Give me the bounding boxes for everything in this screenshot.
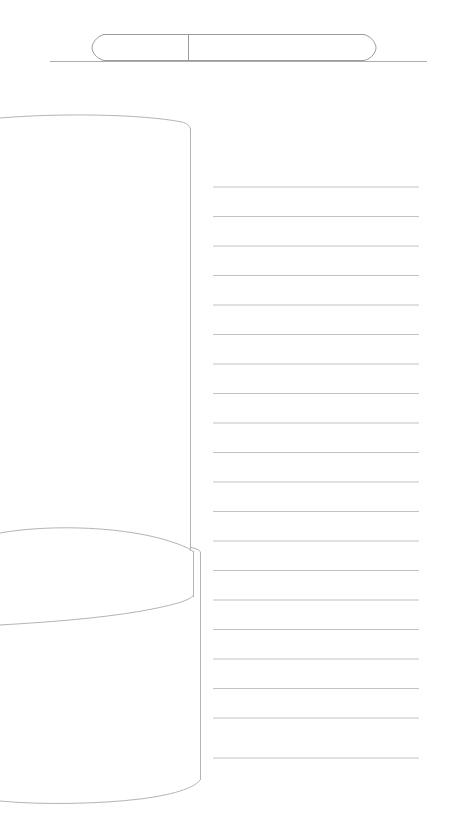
- lower-panel-bottom-curve: [0, 780, 200, 803]
- line-art-svg: [0, 0, 451, 839]
- ruled-lines: [213, 187, 419, 758]
- top-group: [50, 35, 427, 62]
- capsule-outline: [92, 35, 376, 61]
- upper-panel-top-curve: [0, 115, 190, 129]
- upper-panel[interactable]: [0, 115, 191, 551]
- lens-top-arc: [0, 528, 193, 552]
- lower-panel[interactable]: [0, 547, 201, 803]
- drawing-canvas: Untitled line drawing: [0, 0, 451, 839]
- lens-shape[interactable]: [0, 528, 194, 625]
- lens-bottom-arc: [0, 596, 193, 625]
- capsule[interactable]: [92, 35, 376, 61]
